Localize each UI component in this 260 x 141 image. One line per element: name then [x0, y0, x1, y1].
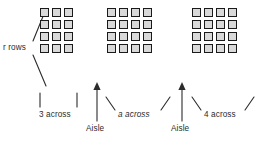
seat — [52, 44, 61, 53]
seat — [204, 44, 213, 53]
seat — [107, 20, 116, 29]
seat — [119, 44, 128, 53]
section-right-seats — [192, 8, 240, 56]
seat-row — [40, 32, 76, 44]
aisle-2-arrowhead — [178, 82, 185, 90]
section1-across-label: 3 across — [39, 111, 71, 119]
seat — [64, 20, 73, 29]
seat-row — [40, 8, 76, 20]
seat-row — [40, 20, 76, 32]
seat-row — [192, 20, 240, 32]
section3-leader-left — [192, 97, 201, 110]
seat — [204, 20, 213, 29]
seat — [52, 20, 61, 29]
seat — [143, 20, 152, 29]
seat — [64, 8, 73, 17]
section2-across-label: a across — [118, 111, 150, 119]
seat — [131, 32, 140, 41]
seat — [40, 32, 49, 41]
section-left-seats — [40, 8, 76, 56]
seat — [143, 8, 152, 17]
seat — [107, 32, 116, 41]
seat — [228, 32, 237, 41]
seat — [216, 32, 225, 41]
seat — [216, 8, 225, 17]
rows-label: r rows — [3, 44, 26, 52]
seat — [40, 44, 49, 53]
section3-across-label: 4 across — [204, 111, 236, 119]
section3-leader-right — [245, 97, 254, 110]
seat — [52, 32, 61, 41]
aisle-2-label: Aisle — [171, 125, 189, 133]
seat-row — [107, 32, 155, 44]
seat — [143, 44, 152, 53]
section2-leader-right — [161, 97, 170, 110]
seat — [228, 20, 237, 29]
seat — [143, 32, 152, 41]
aisle-1-label: Aisle — [86, 125, 104, 133]
seat-row — [192, 32, 240, 44]
seat — [40, 8, 49, 17]
seat — [64, 44, 73, 53]
seat — [192, 20, 201, 29]
seat — [119, 32, 128, 41]
seat — [131, 44, 140, 53]
seat-row — [107, 44, 155, 56]
seat — [204, 32, 213, 41]
seat — [119, 8, 128, 17]
seat — [131, 8, 140, 17]
section-middle-seats — [107, 8, 155, 56]
seat — [228, 8, 237, 17]
seat — [216, 44, 225, 53]
seat — [204, 8, 213, 17]
seat-row — [192, 44, 240, 56]
seat-row — [107, 8, 155, 20]
section2-leader-left — [106, 97, 115, 110]
seat — [192, 8, 201, 17]
seat — [228, 44, 237, 53]
seat — [64, 32, 73, 41]
aisle-1-arrowhead — [93, 82, 100, 90]
seat — [216, 20, 225, 29]
rows-leader-lower — [33, 55, 46, 86]
seat — [131, 20, 140, 29]
seat — [107, 44, 116, 53]
seat — [40, 20, 49, 29]
seat-row — [107, 20, 155, 32]
diagram-canvas: r rows 3 across a across 4 across Aisle … — [0, 0, 260, 141]
seat — [192, 32, 201, 41]
seat — [119, 20, 128, 29]
seat — [107, 8, 116, 17]
seat-row — [40, 44, 76, 56]
seat — [192, 44, 201, 53]
seat-row — [192, 8, 240, 20]
seat — [52, 8, 61, 17]
